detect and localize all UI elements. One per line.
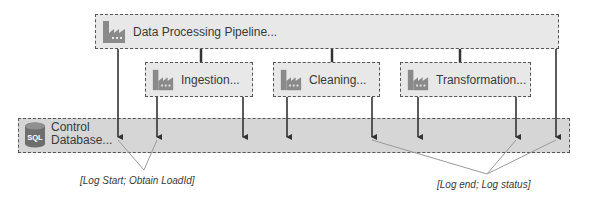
connector-overlay [0,0,589,199]
callout-log-end: [Log end; Log status] [437,179,530,190]
log-arrows [118,49,556,137]
pipeline-connectors [201,49,460,62]
callout-log-start: [Log Start; Obtain LoadId] [80,175,195,186]
callout-lines [118,140,556,174]
